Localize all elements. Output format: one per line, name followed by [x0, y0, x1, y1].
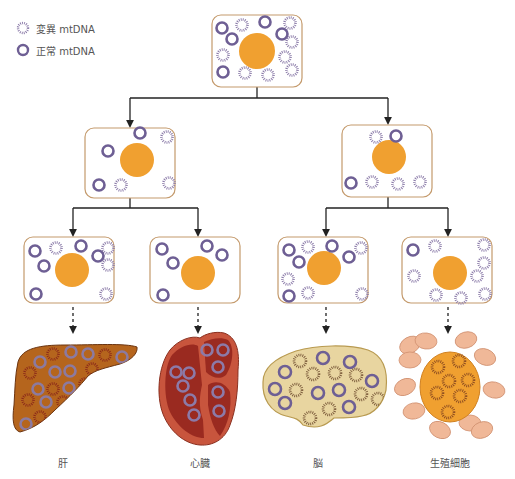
nucleus — [239, 33, 275, 69]
cell-mid-right — [342, 125, 432, 197]
cell-leaf-4 — [402, 237, 492, 304]
legend-label-mutant: 変異 mtDNA — [36, 21, 95, 36]
organ-label-brain: 脳 — [313, 455, 323, 470]
legend-label-normal: 正常 mtDNA — [36, 43, 95, 58]
nucleus — [120, 143, 154, 177]
nucleus — [307, 251, 341, 285]
legend-item-normal: 正常 mtDNA — [16, 39, 95, 61]
organ-label-liver: 肝 — [58, 455, 68, 470]
cell-mid-left — [85, 128, 175, 199]
nucleus — [55, 253, 89, 287]
normal-mtdna-icon — [16, 43, 30, 57]
cell-leaf-2 — [150, 237, 240, 303]
brain-illustration — [263, 346, 387, 427]
nucleus — [433, 256, 467, 290]
somatic-cell — [472, 346, 498, 369]
somatic-cell — [402, 401, 427, 421]
somatic-cell — [453, 329, 479, 350]
legend-item-mutant: 変異 mtDNA — [16, 17, 95, 39]
lineage-connectors — [73, 87, 448, 330]
nucleus — [372, 140, 406, 174]
heart-illustration — [159, 332, 239, 445]
germ-cell-illustration — [392, 329, 507, 442]
cell-leaf-1 — [24, 237, 114, 303]
mtdna-diagram — [0, 0, 515, 479]
legend: 変異 mtDNA 正常 mtDNA — [16, 17, 95, 61]
normal-mtdna-icon — [102, 370, 113, 381]
organ-label-heart: 心臓 — [190, 455, 210, 470]
somatic-cell — [399, 352, 422, 369]
somatic-cell — [392, 375, 419, 399]
organ-label-germ-cell: 生殖細胞 — [430, 455, 470, 470]
mutant-mtdna-icon — [16, 21, 30, 35]
cell-root — [212, 15, 302, 87]
cell-leaf-3 — [278, 237, 368, 303]
nucleus — [181, 256, 215, 290]
liver-illustration — [13, 345, 137, 433]
somatic-cell — [482, 380, 507, 400]
